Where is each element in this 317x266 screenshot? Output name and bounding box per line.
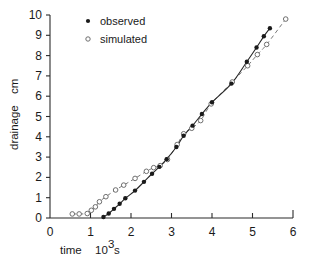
legend-label-observed: observed: [100, 15, 145, 27]
data-point-simulated: [89, 208, 94, 213]
data-point-observed: [142, 180, 146, 184]
y-tick-label: 5: [35, 110, 42, 124]
data-point-simulated: [93, 205, 98, 210]
x-tick-label: 1: [87, 225, 94, 239]
y-tick-label: 9: [35, 28, 42, 42]
x-tick-label: 0: [47, 225, 54, 239]
data-point-observed: [268, 26, 272, 30]
data-point-observed: [101, 215, 105, 219]
data-point-simulated: [104, 194, 109, 199]
data-point-simulated: [70, 212, 75, 217]
y-tick-label: 1: [35, 191, 42, 205]
legend-label-simulated: simulated: [100, 33, 147, 45]
data-point-observed: [245, 59, 249, 63]
data-point-simulated: [283, 17, 288, 22]
data-point-observed: [123, 196, 127, 200]
chart-figure: 012345678910 0123456 observed simulated …: [0, 0, 317, 266]
y-tick-label: 4: [35, 130, 42, 144]
x-tick-label: 5: [249, 225, 256, 239]
data-point-observed: [157, 165, 161, 169]
y-tick-label: 10: [29, 8, 43, 22]
x-tick-label: 6: [290, 225, 297, 239]
y-tick-label: 7: [35, 69, 42, 83]
data-point-simulated: [198, 118, 203, 123]
data-point-simulated: [264, 42, 269, 47]
x-tick-label: 2: [128, 225, 135, 239]
data-point-simulated: [97, 199, 102, 204]
y-axis-title: drainage cm: [8, 79, 20, 150]
data-point-simulated: [113, 188, 118, 193]
y-axis-title-unit: cm: [8, 79, 20, 94]
data-point-observed: [229, 81, 233, 85]
data-point-observed: [112, 207, 116, 211]
data-point-observed: [190, 123, 194, 127]
y-tick-label: 0: [35, 211, 42, 225]
data-point-observed: [117, 202, 121, 206]
y-tick-label: 6: [35, 89, 42, 103]
data-point-observed: [254, 45, 258, 49]
x-axis-title-name: time: [60, 244, 82, 256]
data-point-observed: [150, 172, 154, 176]
data-point-simulated: [255, 52, 260, 57]
legend-marker-simulated-icon: [86, 37, 90, 41]
data-point-observed: [200, 112, 204, 116]
y-tick-label: 2: [35, 170, 42, 184]
drainage-vs-time-line-chart: 012345678910 0123456 observed simulated …: [0, 0, 317, 266]
data-point-simulated: [85, 211, 90, 216]
data-point-observed: [107, 211, 111, 215]
x-axis-title-unit: s: [114, 244, 120, 256]
x-tick-label: 4: [209, 225, 216, 239]
data-point-simulated: [245, 63, 250, 68]
data-point-simulated: [144, 169, 149, 174]
y-tick-label: 3: [35, 150, 42, 164]
y-axis-title-name: drainage: [8, 105, 20, 150]
data-point-observed: [133, 188, 137, 192]
data-point-simulated: [121, 183, 126, 188]
data-point-observed: [210, 100, 214, 104]
data-point-observed: [164, 157, 168, 161]
y-tick-label: 8: [35, 49, 42, 63]
data-point-simulated: [77, 212, 82, 217]
data-point-observed: [174, 145, 178, 149]
data-point-simulated: [151, 165, 156, 170]
data-point-observed: [262, 34, 266, 38]
x-axis-title-mantissa: 10: [95, 244, 108, 256]
x-tick-label: 3: [168, 225, 175, 239]
data-point-simulated: [133, 176, 138, 181]
legend-marker-observed-icon: [86, 19, 90, 23]
data-point-observed: [181, 134, 185, 138]
